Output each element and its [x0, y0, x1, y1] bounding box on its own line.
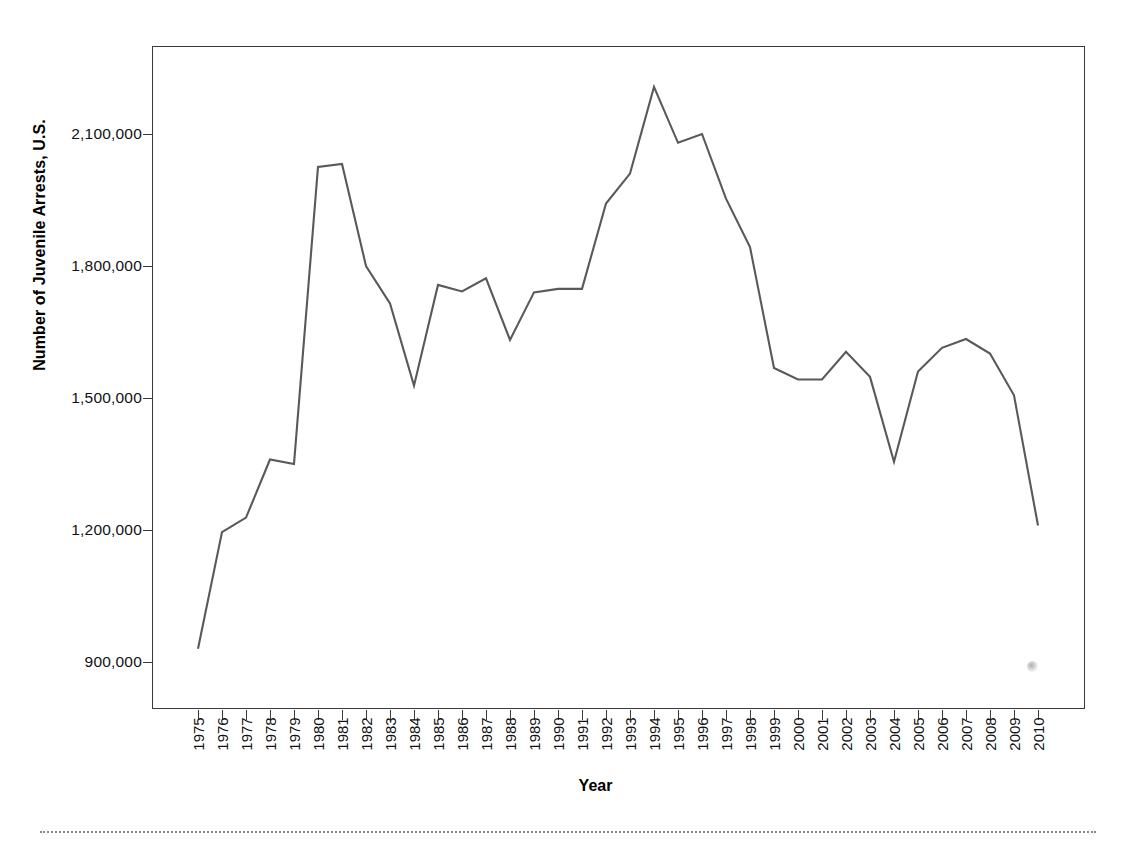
- x-axis-tick-label: 2002: [838, 704, 855, 764]
- x-axis-tick-label: 1987: [478, 704, 495, 764]
- x-axis-tick-label: 2007: [958, 704, 975, 764]
- x-axis-tick-label: 2004: [886, 704, 903, 764]
- chart-figure: 900,0001,200,0001,500,0001,800,0002,100,…: [0, 0, 1129, 841]
- scan-smudge-artifact: [1027, 661, 1038, 672]
- page-divider-rule: [40, 831, 1096, 833]
- x-axis-title-text: Year: [579, 777, 613, 795]
- x-axis-tick-label: 1981: [334, 704, 351, 764]
- x-axis-tick-label: 2003: [862, 704, 879, 764]
- y-axis-tick-mark: [143, 266, 152, 267]
- x-axis-tick-label: 1977: [238, 704, 255, 764]
- x-axis-tick-label: 1979: [286, 704, 303, 764]
- plot-area: [152, 46, 1085, 709]
- y-axis-tick-label: 1,800,000: [71, 257, 142, 275]
- x-axis-tick-label: 1999: [766, 704, 783, 764]
- x-axis-tick-label: 1976: [214, 704, 231, 764]
- y-axis-tick-mark: [143, 662, 152, 663]
- x-axis-tick-label: 1980: [310, 704, 327, 764]
- y-axis-tick-label: 1,200,000: [71, 521, 142, 539]
- y-axis-tick-label: 2,100,000: [71, 125, 142, 143]
- x-axis-tick-label: 1985: [430, 704, 447, 764]
- x-axis-tick-label: 1984: [406, 704, 423, 764]
- x-axis-tick-label: 1997: [718, 704, 735, 764]
- x-axis-tick-label: 2008: [982, 704, 999, 764]
- y-axis-tick-mark: [143, 398, 152, 399]
- x-axis-tick-label: 1986: [454, 704, 471, 764]
- x-axis-tick-label: 2010: [1030, 704, 1047, 764]
- x-axis-tick-label: 1994: [646, 704, 663, 764]
- y-axis-tick-labels: 900,0001,200,0001,500,0001,800,0002,100,…: [0, 0, 142, 841]
- x-axis-tick-label: 1982: [358, 704, 375, 764]
- x-axis-tick-label: 2009: [1006, 704, 1023, 764]
- x-axis-tick-label: 1975: [190, 704, 207, 764]
- x-axis-tick-label: 1989: [526, 704, 543, 764]
- x-axis-tick-label: 2005: [910, 704, 927, 764]
- x-axis-tick-label: 1991: [574, 704, 591, 764]
- x-axis-tick-label: 1995: [670, 704, 687, 764]
- x-axis-title: Year: [0, 777, 1129, 795]
- y-axis-tick-mark: [143, 530, 152, 531]
- y-axis-tick-mark: [143, 134, 152, 135]
- x-axis-tick-label: 1998: [742, 704, 759, 764]
- x-axis-tick-label: 1988: [502, 704, 519, 764]
- x-axis-tick-label: 1996: [694, 704, 711, 764]
- x-axis-tick-label: 2006: [934, 704, 951, 764]
- y-axis-tick-label: 1,500,000: [71, 389, 142, 407]
- x-axis-tick-label: 1978: [262, 704, 279, 764]
- x-axis-tick-label: 1992: [598, 704, 615, 764]
- x-axis-tick-label: 2001: [814, 704, 831, 764]
- x-axis-tick-label: 1983: [382, 704, 399, 764]
- y-axis-title: Number of Juvenile Arrests, U.S.: [31, 65, 49, 425]
- x-axis-tick-label: 1990: [550, 704, 567, 764]
- x-axis-tick-label: 1993: [622, 704, 639, 764]
- x-axis-tick-label: 2000: [790, 704, 807, 764]
- y-axis-tick-label: 900,000: [85, 653, 142, 671]
